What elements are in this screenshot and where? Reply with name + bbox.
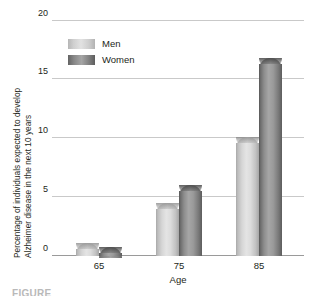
bar-body: [259, 64, 282, 256]
y-tick-label-5: 5: [26, 185, 48, 194]
bar-men-75: [156, 203, 179, 256]
legend-item-women: Women: [68, 53, 135, 66]
legend-label-men: Men: [102, 39, 120, 49]
figure-chart: Percentage of individuals expected to de…: [0, 0, 310, 296]
bar-women-65: [99, 247, 122, 256]
legend-swatch-women-icon: [68, 55, 95, 65]
y-axis-title-line-1: Percentage of individuals expected to de…: [12, 6, 22, 258]
y-tick-label-0: 0: [26, 244, 48, 253]
x-axis-title: Age: [52, 274, 304, 285]
legend-swatch-men-icon: [68, 39, 95, 49]
bar-body: [156, 209, 179, 256]
y-tick-label-15: 15: [26, 67, 48, 76]
figure-caption: FIGURE: [12, 288, 52, 296]
bar-body: [99, 253, 122, 256]
bar-women-85: [259, 58, 282, 256]
legend: Men Women: [68, 37, 135, 69]
legend-label-women: Women: [102, 55, 135, 65]
x-axis-ticks: 65 75 85: [52, 260, 304, 274]
bar-body: [236, 143, 259, 256]
bar-body: [179, 191, 202, 256]
x-tick-label-85: 85: [239, 260, 279, 271]
legend-item-men: Men: [68, 37, 135, 50]
bar-men-85: [236, 137, 259, 256]
bar-women-75: [179, 185, 202, 256]
x-tick-label-75: 75: [159, 260, 199, 271]
bar-men-65: [76, 243, 99, 256]
y-tick-label-10: 10: [26, 126, 48, 135]
x-tick-label-65: 65: [79, 260, 119, 271]
bar-body: [76, 249, 99, 256]
y-tick-label-20: 20: [26, 9, 48, 18]
